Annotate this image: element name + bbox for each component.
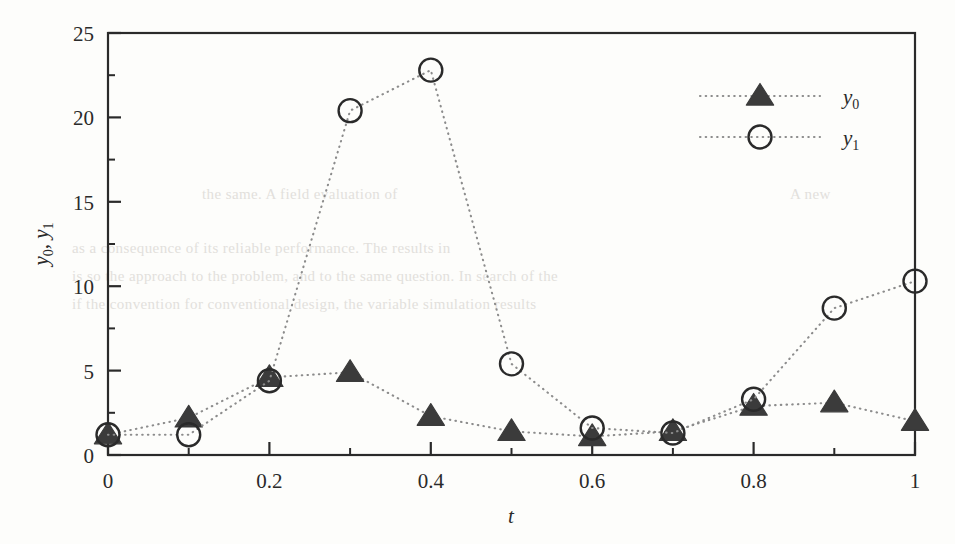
marker-triangle bbox=[336, 360, 363, 382]
y-axis-label-y1-sub: 1 bbox=[41, 222, 56, 229]
chart-figure: the same. A field evaluation of A new as… bbox=[0, 0, 955, 544]
legend-label-y0: y0 bbox=[841, 85, 859, 112]
x-tick-label: 0.8 bbox=[740, 469, 766, 493]
y-axis-label-y0-sub: 0 bbox=[41, 249, 56, 256]
x-axis-ticks bbox=[108, 442, 915, 455]
x-tick-label: 0 bbox=[103, 469, 114, 493]
y-tick-label: 5 bbox=[84, 360, 95, 384]
marker-triangle bbox=[417, 404, 444, 426]
plot-frame bbox=[108, 33, 915, 455]
y-tick-label: 0 bbox=[84, 444, 95, 468]
marker-triangle bbox=[821, 390, 848, 412]
marker-circle bbox=[419, 59, 442, 82]
legend-marker-triangle bbox=[746, 83, 773, 105]
y-axis-label-y0-base: y bbox=[29, 256, 53, 268]
marker-triangle bbox=[498, 419, 525, 441]
chart-svg: 00.20.40.60.81 0510152025 t y0, y1 y0y1 bbox=[0, 0, 955, 544]
y-tick-label: 15 bbox=[73, 191, 94, 215]
series-layer bbox=[94, 59, 928, 447]
marker-circle bbox=[339, 99, 362, 122]
series-y1 bbox=[97, 59, 927, 447]
x-tick-label: 0.2 bbox=[256, 469, 282, 493]
x-axis-label: t bbox=[508, 504, 515, 528]
y-axis-label-y1-base: y bbox=[29, 229, 53, 241]
y-tick-label: 25 bbox=[73, 22, 94, 46]
y-axis-ticks bbox=[108, 33, 121, 455]
legend: y0y1 bbox=[700, 83, 859, 153]
legend-label-y1: y1 bbox=[841, 126, 859, 153]
x-tick-label: 0.4 bbox=[418, 469, 445, 493]
series-line-y1 bbox=[108, 70, 915, 435]
y-tick-label: 20 bbox=[73, 106, 94, 130]
y-axis-tick-labels: 0510152025 bbox=[73, 22, 94, 468]
svg-text:y0, y1: y0, y1 bbox=[29, 222, 56, 267]
y-axis-label: y0, y1 bbox=[29, 222, 56, 267]
x-tick-label: 0.6 bbox=[579, 469, 605, 493]
y-tick-label: 10 bbox=[73, 275, 94, 299]
x-tick-label: 1 bbox=[910, 469, 921, 493]
series-y0 bbox=[94, 360, 928, 446]
x-axis-tick-labels: 00.20.40.60.81 bbox=[103, 469, 921, 493]
